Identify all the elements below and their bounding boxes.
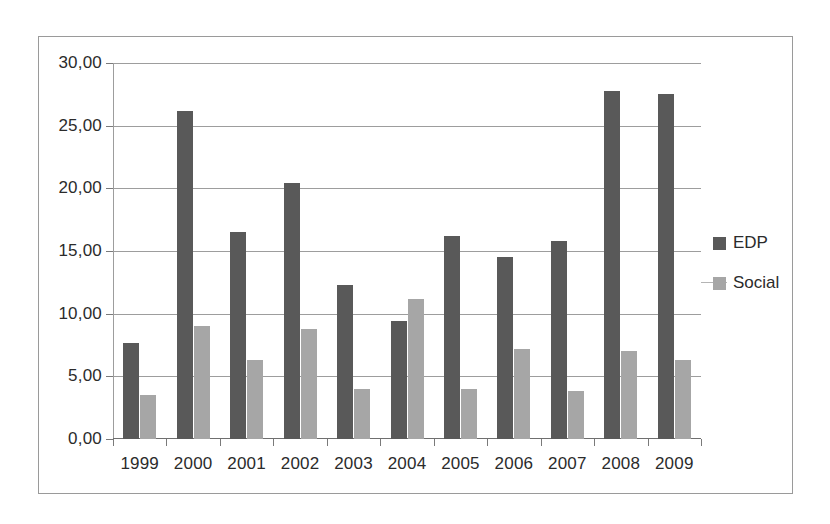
x-tick-mark — [380, 439, 381, 446]
x-tick-mark — [487, 439, 488, 446]
bar-edp-2008 — [604, 91, 620, 439]
y-tick-label: 25,00 — [58, 116, 102, 136]
bar-edp-2002 — [284, 183, 300, 439]
bar-social-2006 — [514, 349, 530, 439]
x-tick-mark — [701, 439, 702, 446]
bar-edp-2003 — [337, 285, 353, 439]
bar-social-2003 — [354, 389, 370, 439]
legend-swatch-icon — [713, 237, 726, 250]
bar-edp-2009 — [658, 94, 674, 439]
x-tick-label-2002: 2002 — [281, 454, 320, 474]
bar-social-1999 — [140, 395, 156, 439]
legend-label: EDP — [733, 233, 768, 253]
bar-edp-2007 — [551, 241, 567, 439]
bar-social-2001 — [247, 360, 263, 439]
bar-edp-2005 — [444, 236, 460, 439]
legend-swatch-icon — [713, 277, 726, 290]
x-tick-mark — [166, 439, 167, 446]
bar-edp-2006 — [497, 257, 513, 439]
x-tick-label-2006: 2006 — [495, 454, 534, 474]
y-tick-label: 10,00 — [58, 304, 102, 324]
x-tick-label-2009: 2009 — [655, 454, 694, 474]
chart-frame: 0,005,0010,0015,0020,0025,0030,00 199920… — [38, 36, 793, 494]
x-tick-mark — [327, 439, 328, 446]
y-tick-label: 5,00 — [68, 366, 102, 386]
bar-social-2008 — [621, 351, 637, 439]
chart-legend: EDPSocial — [713, 233, 779, 313]
bar-social-2000 — [194, 326, 210, 439]
bar-edp-2001 — [230, 232, 246, 439]
bar-social-2009 — [675, 360, 691, 439]
x-tick-label-2003: 2003 — [334, 454, 373, 474]
x-tick-label-2005: 2005 — [441, 454, 480, 474]
legend-item-social: Social — [713, 273, 779, 293]
x-tick-label-2004: 2004 — [388, 454, 427, 474]
x-tick-mark — [434, 439, 435, 446]
bar-social-2007 — [568, 391, 584, 439]
y-tick-mark — [106, 63, 113, 64]
x-tick-label-2000: 2000 — [174, 454, 213, 474]
legend-item-edp: EDP — [713, 233, 779, 253]
x-tick-mark — [594, 439, 595, 446]
x-tick-label-1999: 1999 — [120, 454, 159, 474]
x-tick-mark — [220, 439, 221, 446]
y-tick-mark — [106, 251, 113, 252]
y-tick-mark — [106, 314, 113, 315]
x-tick-mark — [541, 439, 542, 446]
legend-label: Social — [733, 273, 779, 293]
bar-social-2002 — [301, 329, 317, 439]
x-tick-label-2008: 2008 — [602, 454, 641, 474]
x-tick-label-2001: 2001 — [227, 454, 266, 474]
y-tick-label: 0,00 — [68, 429, 102, 449]
y-tick-label: 15,00 — [58, 241, 102, 261]
y-tick-label: 30,00 — [58, 53, 102, 73]
x-tick-mark — [113, 439, 114, 446]
bar-edp-2004 — [391, 321, 407, 439]
y-tick-mark — [106, 126, 113, 127]
y-tick-mark — [106, 376, 113, 377]
y-tick-mark — [106, 439, 113, 440]
x-tick-label-2007: 2007 — [548, 454, 587, 474]
x-tick-mark — [648, 439, 649, 446]
bar-social-2004 — [408, 299, 424, 439]
bar-edp-1999 — [123, 343, 139, 440]
y-tick-mark — [106, 188, 113, 189]
plot-area: 0,005,0010,0015,0020,0025,0030,00 199920… — [113, 63, 701, 439]
bar-edp-2000 — [177, 111, 193, 439]
gridline-30-00 — [113, 63, 701, 64]
x-tick-mark — [273, 439, 274, 446]
y-tick-label: 20,00 — [58, 178, 102, 198]
bar-social-2005 — [461, 389, 477, 439]
